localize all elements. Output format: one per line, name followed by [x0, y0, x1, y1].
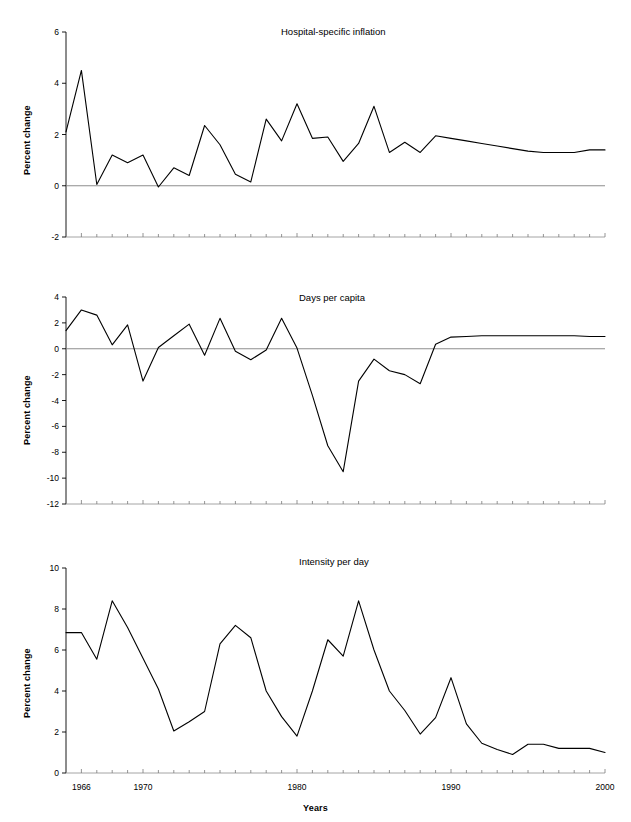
y-tick-label: 8 [54, 604, 59, 614]
y-tick-label: -8 [51, 447, 59, 457]
y-tick-label: 0 [54, 768, 59, 778]
chart-panel-days-per-capita: Percent change Days per capita -12-10-8-… [0, 270, 631, 538]
y-tick-label: 2 [54, 130, 59, 140]
y-tick-label: 4 [54, 686, 59, 696]
y-tick-label: 6 [54, 645, 59, 655]
chart-plot-panel-3: 024681019661970198019902000 [0, 538, 631, 822]
y-tick-label: -10 [47, 473, 60, 483]
y-tick-label: 4 [54, 78, 59, 88]
data-series-line [66, 601, 605, 755]
y-tick-label: 0 [54, 181, 59, 191]
y-tick-label: -4 [51, 396, 59, 406]
y-axis-label-panel-1: Percent change [22, 105, 32, 175]
chart-panel-hospital-specific-inflation: Percent change Hospital-specific inflati… [0, 0, 631, 270]
y-tick-label: 4 [54, 292, 59, 302]
x-tick-label: 1980 [288, 782, 307, 792]
y-tick-label: -2 [51, 370, 59, 380]
y-tick-label: 6 [54, 27, 59, 37]
x-tick-label: 1970 [134, 782, 153, 792]
y-tick-label: -6 [51, 421, 59, 431]
x-axis-title: Years [303, 803, 328, 813]
y-tick-label: 0 [54, 344, 59, 354]
y-tick-label: -2 [51, 232, 59, 242]
chart-plot-panel-1: -20246 [0, 0, 631, 270]
chart-title-panel-2: Days per capita [299, 292, 365, 303]
y-axis-label-panel-2: Percent change [22, 375, 32, 445]
y-tick-label: 2 [54, 727, 59, 737]
x-tick-label: 1990 [442, 782, 461, 792]
x-tick-label: 1966 [72, 782, 91, 792]
chart-plot-panel-2: -12-10-8-6-4-2024 [0, 270, 631, 538]
chart-title-panel-1: Hospital-specific inflation [281, 26, 386, 37]
y-axis-label-panel-3: Percent change [22, 648, 32, 718]
y-tick-label: -12 [47, 499, 60, 509]
x-tick-label: 2000 [596, 782, 615, 792]
data-series-line [66, 70, 605, 187]
data-series-line [66, 310, 605, 472]
chart-title-panel-3: Intensity per day [299, 556, 369, 567]
y-tick-label: 2 [54, 318, 59, 328]
figure-page: Percent change Hospital-specific inflati… [0, 0, 631, 822]
chart-panel-intensity-per-day: Percent change Intensity per day 0246810… [0, 538, 631, 822]
y-tick-label: 10 [50, 563, 60, 573]
